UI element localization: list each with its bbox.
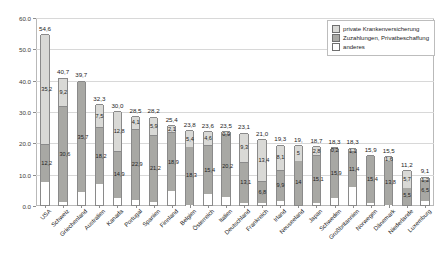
segment-value-label: 6,8	[258, 190, 265, 196]
bar: 11,41,118,3	[348, 149, 357, 206]
segment-value-label: 21,2	[150, 166, 157, 172]
stacked-bar-chart: 0.010.020.030.040.050.060.0 12,235,254,6…	[0, 0, 443, 274]
bar-segment-private-krankenversicherung: 0,9	[222, 131, 229, 134]
segment-value-label: 18,3	[186, 173, 193, 179]
bar: 5,55,711,2	[402, 171, 411, 206]
chart-legend: private KrankenversicherungZuzahlungen, …	[327, 20, 435, 56]
bar-segment-private-krankenversicherung: 5,7	[403, 170, 410, 188]
segment-value-label: 22,9	[132, 162, 139, 168]
bar-segment-anderes	[204, 194, 211, 205]
y-tick-label: 50.0	[0, 46, 31, 53]
segment-value-label: 8,1	[277, 155, 284, 161]
x-axis-label: Spanien	[141, 208, 161, 228]
bar-segment-anderes	[114, 198, 121, 205]
bar-segment-private-krankenversicherung: 0,2	[331, 147, 338, 148]
x-tick-mark	[425, 205, 426, 208]
bar-segment-anderes	[222, 197, 229, 205]
bar-segment-zuzahlungen: 30,6	[59, 106, 66, 202]
bar: 15,44,623,6	[203, 132, 212, 206]
bar: 35,739,7	[77, 82, 86, 206]
legend-item[interactable]: Zuzahlungen, Privatbeschaffung	[332, 34, 429, 42]
bar: 22,94,128,5	[131, 117, 140, 206]
x-axis-label: USA	[39, 208, 52, 221]
segment-value-label: 0,2	[331, 148, 338, 154]
segment-value-label: 5,9	[150, 124, 157, 130]
bar-segment-private-krankenversicherung: 8,1	[277, 145, 284, 170]
bar-segment-private-krankenversicherung: 13,4	[258, 139, 265, 181]
legend-label: private Krankenversicherung	[343, 26, 419, 32]
segment-value-label: 13,8	[385, 180, 392, 186]
segment-value-label: 18,2	[96, 154, 103, 160]
segment-value-label: 5,4	[186, 137, 193, 143]
segment-value-label: 13,4	[258, 158, 265, 164]
x-tick-mark	[316, 205, 317, 208]
segment-value-label: 9,9	[277, 183, 284, 189]
bar-total-label: 23,1	[232, 124, 255, 130]
bar: 15,90,218,3	[330, 149, 339, 206]
bar-segment-zuzahlungen: 22,9	[132, 129, 139, 201]
bar: 13,81,615,5	[384, 157, 393, 206]
x-tick-mark	[117, 205, 118, 208]
bar: 6,51,29,1	[420, 178, 429, 207]
x-tick-mark	[226, 205, 227, 208]
segment-value-label: 4,6	[204, 136, 211, 142]
bar-segment-private-krankenversicherung: 1,6	[385, 156, 392, 161]
bar-segment-zuzahlungen: 13,1	[240, 162, 247, 203]
x-tick-mark	[298, 205, 299, 208]
x-tick-mark	[335, 205, 336, 208]
y-tick-label: 10.0	[0, 171, 31, 178]
bar-segment-private-krankenversicherung: 5,4	[186, 130, 193, 147]
bar-segment-private-krankenversicherung: 5	[295, 145, 302, 161]
bar-total-label: 18,3	[341, 139, 364, 145]
bar-segment-zuzahlungen: 14,9	[114, 151, 121, 198]
segment-value-label: 12,8	[114, 129, 121, 135]
y-tick-label: 0.0	[0, 203, 31, 210]
bar-segment-zuzahlungen: 15,9	[331, 148, 338, 198]
bar-segment-zuzahlungen: 13,8	[385, 161, 392, 204]
bar: 13,19,323,1	[239, 134, 248, 206]
x-axis-label: Portugal	[123, 208, 143, 228]
x-tick-mark	[262, 205, 263, 208]
bar-segment-private-krankenversicherung: 1,2	[421, 177, 428, 181]
legend-item[interactable]: private Krankenversicherung	[332, 25, 429, 33]
segment-value-label: 15,1	[313, 177, 320, 183]
x-tick-mark	[154, 205, 155, 208]
segment-value-label: 9,3	[240, 145, 247, 151]
segment-value-label: 2,8	[313, 149, 320, 155]
bar: 18,92,125,4	[167, 126, 176, 206]
segment-value-label: 20,2	[222, 164, 229, 170]
legend-item[interactable]: anderes	[332, 43, 429, 51]
segment-value-label: 5	[295, 151, 302, 157]
segment-value-label: 14,9	[114, 172, 121, 178]
bar-segment-zuzahlungen: 15,4	[367, 155, 374, 203]
x-tick-mark	[389, 205, 390, 208]
x-axis-labels: USASchweizGriechenlandAustralienKanadaPo…	[36, 208, 434, 274]
x-tick-mark	[81, 205, 82, 208]
bar-total-label: 32,3	[88, 96, 111, 102]
legend-swatch-icon	[332, 34, 340, 42]
bar-segment-zuzahlungen: 18,2	[96, 127, 103, 184]
segment-value-label: 18,9	[168, 160, 175, 166]
legend-swatch-icon	[332, 25, 340, 33]
segment-value-label: 7,5	[96, 114, 103, 120]
segment-value-label: 1,1	[349, 149, 356, 155]
x-axis-label: Irland	[273, 208, 288, 223]
bar: 15,12,818,7	[312, 147, 321, 206]
x-tick-mark	[45, 205, 46, 208]
bar-segment-zuzahlungen: 14	[295, 161, 302, 205]
x-axis-label: Kanada	[106, 208, 125, 227]
legend-label: anderes	[343, 44, 365, 50]
x-tick-mark	[208, 205, 209, 208]
bar-segment-anderes	[168, 191, 175, 205]
segment-value-label: 15,4	[204, 168, 211, 174]
y-tick-label: 20.0	[0, 140, 31, 147]
bar-segment-private-krankenversicherung: 4,6	[204, 131, 211, 145]
bar-segment-private-krankenversicherung: 1,1	[349, 148, 356, 151]
segment-value-label: 13,1	[240, 180, 247, 186]
bar: 18,35,423,8	[185, 131, 194, 206]
y-tick-mark	[33, 206, 36, 207]
bar-segment-zuzahlungen: 18,9	[168, 132, 175, 191]
x-tick-mark	[353, 205, 354, 208]
segment-value-label: 0,9	[222, 132, 229, 138]
bar-segment-anderes	[331, 198, 338, 205]
